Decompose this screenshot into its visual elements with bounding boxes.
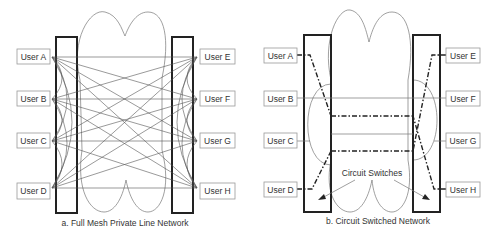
user-b-box: User B (264, 91, 297, 106)
user-a-box: User A (264, 48, 297, 63)
user-f-label: User F (205, 94, 231, 104)
user-h-box: User H (200, 183, 235, 199)
left-switch-fabric (308, 84, 331, 165)
mesh-lines (52, 57, 197, 188)
user-b-label: User B (268, 94, 294, 104)
user-e-label: User E (450, 51, 476, 61)
user-f-box: User F (446, 91, 480, 106)
arrowhead-icon (318, 194, 326, 200)
user-a-box: User A (17, 49, 50, 64)
user-g-label: User G (204, 136, 231, 146)
user-g-box: User G (200, 133, 235, 148)
arrow-left-switch (322, 180, 355, 198)
user-g-box: User G (446, 133, 480, 148)
user-d-box: User D (264, 182, 297, 197)
user-e-box: User E (200, 49, 235, 64)
user-c-label: User C (20, 136, 46, 146)
user-a-label: User A (21, 52, 47, 62)
circuit-a (297, 55, 331, 116)
right-switch (413, 35, 440, 212)
user-f-box: User F (200, 91, 235, 106)
circuit-switches-label: Circuit Switches (342, 168, 402, 178)
user-d-label: User D (267, 185, 293, 195)
caption-a: a. Full Mesh Private Line Network (61, 218, 189, 228)
arrow-right-switch (394, 180, 426, 198)
user-e-label: User E (205, 52, 231, 62)
user-c-label: User C (267, 136, 293, 146)
user-b-box: User B (17, 91, 50, 106)
user-h-label: User H (450, 185, 476, 195)
user-d-box: User D (17, 183, 50, 199)
network-cloud (328, 10, 410, 212)
caption-b: b. Circuit Switched Network (326, 216, 431, 226)
panel-circuit-switched: Circuit Switches User A User B User C Us… (264, 10, 480, 226)
user-g-label: User G (450, 136, 477, 146)
user-b-label: User B (21, 94, 47, 104)
user-d-label: User D (20, 186, 46, 196)
user-f-label: User F (450, 94, 476, 104)
network-diagrams: User A User B User C User D User E User … (0, 0, 496, 247)
arrowhead-icon (422, 194, 430, 200)
user-h-box: User H (446, 182, 480, 197)
user-c-box: User C (17, 133, 50, 148)
right-switch-fabric (413, 80, 437, 160)
panel-full-mesh: User A User B User C User D User E User … (17, 12, 235, 228)
user-h-label: User H (204, 186, 230, 196)
circuit-e (413, 55, 446, 151)
circuit-d (297, 151, 331, 189)
user-e-box: User E (446, 48, 480, 63)
user-c-box: User C (264, 133, 297, 148)
user-a-label: User A (268, 51, 294, 61)
